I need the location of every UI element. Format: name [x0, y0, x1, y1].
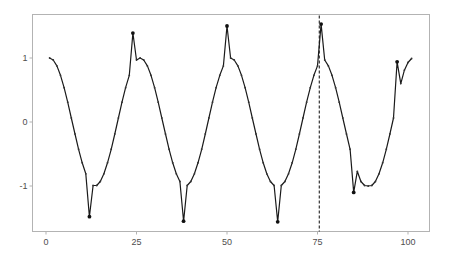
data-point [154, 87, 156, 89]
x-tick-label: 75 [312, 237, 322, 247]
data-point [219, 74, 221, 76]
outlier-point [395, 60, 399, 64]
data-point [244, 87, 246, 89]
x-tick-label: 0 [43, 237, 48, 247]
data-point [70, 117, 72, 119]
data-point [204, 133, 206, 135]
y-tick-label: -1 [19, 181, 27, 191]
data-point [291, 162, 293, 164]
data-point [165, 133, 167, 135]
data-point [385, 148, 387, 150]
data-point [136, 59, 138, 61]
data-point [74, 133, 76, 135]
x-tick-label: 25 [131, 237, 141, 247]
outlier-point [225, 24, 229, 28]
data-point [49, 57, 51, 59]
data-point [212, 101, 214, 103]
data-point [266, 173, 268, 175]
data-point [324, 59, 326, 61]
data-point [161, 117, 163, 119]
data-point [139, 57, 141, 59]
data-point [364, 185, 366, 187]
data-point [67, 101, 69, 103]
data-point [215, 87, 217, 89]
data-point [360, 181, 362, 183]
data-point [335, 87, 337, 89]
data-point [317, 65, 319, 67]
data-point [114, 133, 116, 135]
y-tick-label: 0 [22, 117, 27, 127]
data-point [382, 162, 384, 164]
data-point [107, 162, 109, 164]
data-point [194, 173, 196, 175]
x-tick-label: 50 [222, 237, 232, 247]
data-point [255, 133, 257, 135]
data-point [280, 185, 282, 187]
x-tick-label: 100 [400, 237, 415, 247]
data-point [60, 74, 62, 76]
data-point [52, 59, 54, 61]
data-point [371, 185, 373, 187]
data-point [367, 185, 369, 187]
data-point [172, 162, 174, 164]
data-point [233, 59, 235, 61]
data-point [197, 162, 199, 164]
data-point [270, 181, 272, 183]
data-point [92, 185, 94, 187]
data-point [327, 65, 329, 67]
data-point [338, 101, 340, 103]
data-point [201, 148, 203, 150]
data-point [56, 65, 58, 67]
data-point [121, 101, 123, 103]
data-point [302, 117, 304, 119]
data-point [284, 181, 286, 183]
y-tick-label: 1 [22, 53, 27, 63]
data-point [299, 133, 301, 135]
data-point [259, 148, 261, 150]
data-point [288, 173, 290, 175]
data-point [389, 133, 391, 135]
data-point [346, 133, 348, 135]
data-point [146, 65, 148, 67]
data-point [378, 173, 380, 175]
data-point [251, 117, 253, 119]
data-point [110, 148, 112, 150]
data-point [143, 59, 145, 61]
data-point [237, 65, 239, 67]
outlier-point [276, 220, 280, 224]
line-chart: -101 0255075100 [0, 0, 451, 253]
data-point [175, 173, 177, 175]
data-point [103, 173, 105, 175]
data-point [157, 101, 159, 103]
data-point [313, 74, 315, 76]
data-point [99, 181, 101, 183]
data-point [342, 117, 344, 119]
outlier-point [88, 215, 92, 219]
data-point [393, 117, 395, 119]
data-point [208, 117, 210, 119]
data-point [190, 181, 192, 183]
data-point [128, 74, 130, 76]
data-point [118, 117, 120, 119]
outlier-point [131, 31, 135, 35]
data-point [81, 162, 83, 164]
data-point [96, 185, 98, 187]
outlier-point [319, 22, 323, 26]
data-point [331, 74, 333, 76]
data-point [186, 185, 188, 187]
data-point [78, 148, 80, 150]
data-point [230, 57, 232, 59]
data-point [407, 62, 409, 64]
data-point [179, 181, 181, 183]
data-point [150, 74, 152, 76]
data-point [309, 87, 311, 89]
data-point [262, 162, 264, 164]
outlier-point [182, 219, 186, 223]
data-point [411, 58, 413, 60]
data-point [295, 148, 297, 150]
data-point [306, 101, 308, 103]
data-point [349, 148, 351, 150]
data-point [168, 148, 170, 150]
data-point [248, 101, 250, 103]
data-point [241, 74, 243, 76]
